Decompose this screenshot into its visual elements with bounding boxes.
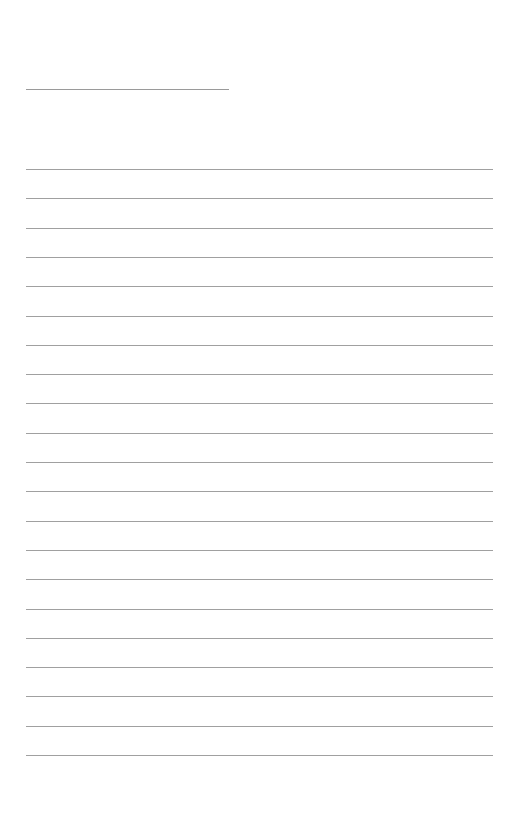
ruled-line <box>26 638 493 639</box>
ruled-line <box>26 491 493 492</box>
ruled-line <box>26 257 493 258</box>
lined-paper-page <box>0 0 518 834</box>
ruled-line <box>26 667 493 668</box>
ruled-line <box>26 403 493 404</box>
ruled-line <box>26 755 493 756</box>
ruled-line <box>26 462 493 463</box>
title-write-line <box>26 89 229 90</box>
ruled-line <box>26 374 493 375</box>
ruled-line <box>26 521 493 522</box>
ruled-line <box>26 433 493 434</box>
ruled-line <box>26 169 493 170</box>
ruled-line <box>26 696 493 697</box>
ruled-line <box>26 286 493 287</box>
ruled-line <box>26 198 493 199</box>
ruled-line <box>26 316 493 317</box>
ruled-line <box>26 609 493 610</box>
ruled-line <box>26 550 493 551</box>
ruled-line <box>26 228 493 229</box>
ruled-line <box>26 345 493 346</box>
ruled-line <box>26 579 493 580</box>
ruled-line <box>26 726 493 727</box>
